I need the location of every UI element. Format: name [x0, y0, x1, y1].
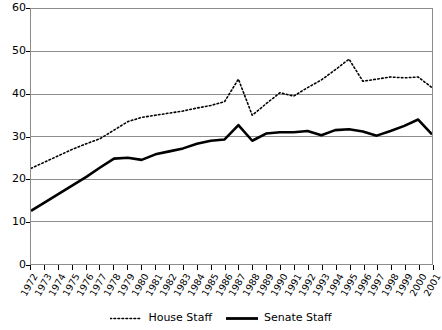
x-tick-mark — [197, 265, 198, 270]
series-layer — [31, 9, 432, 264]
solid-line-swatch — [226, 315, 258, 322]
dotted-line-swatch — [110, 315, 142, 322]
x-tick-mark — [350, 265, 351, 270]
x-tick-mark — [183, 265, 184, 270]
x-tick-mark — [336, 265, 337, 270]
x-tick-mark — [127, 265, 128, 270]
x-tick-mark — [252, 265, 253, 270]
y-tick-label: 50 — [0, 45, 26, 56]
x-tick-mark — [280, 265, 281, 270]
x-tick-mark — [72, 265, 73, 270]
y-axis: 0102030405060 — [0, 0, 26, 275]
x-tick-mark — [44, 265, 45, 270]
x-tick-mark — [99, 265, 100, 270]
y-tick-label: 0 — [0, 259, 26, 270]
x-tick-mark — [58, 265, 59, 270]
legend-entry-house-staff[interactable]: House Staff — [110, 312, 212, 324]
legend-label: Senate Staff — [264, 312, 332, 324]
series-line-house-staff — [31, 59, 432, 168]
legend-label: House Staff — [148, 312, 212, 324]
x-tick-mark — [169, 265, 170, 270]
y-tick-label: 20 — [0, 173, 26, 184]
x-tick-mark — [419, 265, 420, 270]
legend-entry-senate-staff[interactable]: Senate Staff — [226, 312, 332, 324]
x-tick-mark — [238, 265, 239, 270]
y-tick-label: 60 — [0, 2, 26, 13]
x-tick-mark — [266, 265, 267, 270]
chart-legend: House StaffSenate Staff — [0, 309, 442, 327]
x-tick-mark — [405, 265, 406, 270]
x-tick-mark — [322, 265, 323, 270]
x-tick-mark — [30, 265, 31, 270]
x-tick-mark — [225, 265, 226, 270]
x-tick-mark — [391, 265, 392, 270]
y-tick-label: 40 — [0, 88, 26, 99]
x-tick-mark — [211, 265, 212, 270]
series-line-senate-staff — [31, 120, 432, 211]
x-tick-mark — [308, 265, 309, 270]
x-tick-mark — [155, 265, 156, 270]
x-tick-mark — [86, 265, 87, 270]
x-tick-mark — [433, 265, 434, 270]
x-tick-mark — [364, 265, 365, 270]
x-tick-mark — [113, 265, 114, 270]
line-chart: 0102030405060 19721973197419751976197719… — [0, 0, 442, 330]
plot-area — [30, 8, 433, 265]
y-tick-label: 30 — [0, 131, 26, 142]
x-tick-mark — [141, 265, 142, 270]
y-tick-label: 10 — [0, 216, 26, 227]
x-tick-mark — [294, 265, 295, 270]
x-tick-mark — [377, 265, 378, 270]
